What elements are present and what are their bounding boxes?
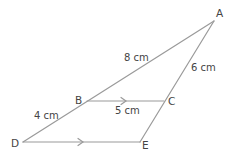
- point-label-d: D: [11, 138, 19, 149]
- measurement-ac: 6 cm: [191, 63, 216, 73]
- point-label-e: E: [142, 140, 149, 151]
- point-label-b: B: [75, 95, 82, 106]
- triangle-diagram: [0, 0, 230, 159]
- segment-AE: [140, 21, 214, 142]
- point-label-c: C: [168, 96, 175, 107]
- measurement-bd: 4 cm: [34, 111, 59, 121]
- measurement-ab: 8 cm: [124, 53, 149, 63]
- segment-AD: [23, 21, 214, 142]
- measurement-bc: 5 cm: [115, 106, 140, 116]
- point-label-a: A: [216, 8, 223, 19]
